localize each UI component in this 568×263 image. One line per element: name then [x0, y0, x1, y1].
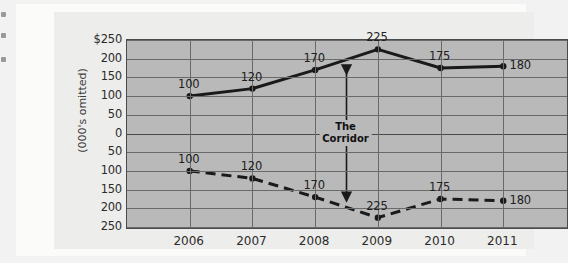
- gridline-vertical: [252, 40, 253, 228]
- gridline-horizontal: [127, 40, 567, 41]
- gridline-vertical: [315, 40, 316, 228]
- data-label: 120: [241, 159, 262, 173]
- data-label: 170: [303, 178, 324, 192]
- data-label: 225: [366, 30, 387, 44]
- gridline-horizontal: [127, 171, 567, 172]
- gridline-horizontal: [127, 208, 567, 209]
- y-tick-label: 50: [60, 146, 122, 157]
- y-tick-label: 0: [60, 128, 122, 139]
- x-tick-label: 2008: [284, 234, 344, 248]
- x-tick-label: 2006: [159, 234, 219, 248]
- page-sheet: (000's omitted) $25020015010050050100150…: [16, 4, 526, 256]
- data-label: 100: [178, 77, 199, 91]
- y-tick-label: 150: [60, 184, 122, 195]
- y-tick-label: 200: [60, 53, 122, 64]
- data-label: 175: [429, 49, 450, 63]
- gridline-vertical: [190, 40, 191, 228]
- y-tick-label: 100: [60, 90, 122, 101]
- x-tick-label: 2009: [347, 234, 407, 248]
- data-label: 100: [178, 152, 199, 166]
- y-axis-ticks: $25020015010050050100150200250: [58, 39, 122, 229]
- data-label: 170: [303, 51, 324, 65]
- scan-artifacts: [0, 0, 10, 263]
- data-label: 225: [366, 199, 387, 213]
- y-tick-label: $250: [60, 34, 122, 45]
- gridline-horizontal: [127, 190, 567, 191]
- gridline-horizontal: [127, 115, 567, 116]
- gridline-vertical: [441, 40, 442, 228]
- corridor-label-line1: The: [322, 121, 368, 133]
- y-tick-label: 100: [60, 165, 122, 176]
- data-label: 180: [510, 58, 531, 72]
- gridline-horizontal: [127, 227, 567, 228]
- y-tick-label: 250: [60, 221, 122, 232]
- y-tick-label: 50: [60, 109, 122, 120]
- y-tick-label: 150: [60, 71, 122, 82]
- y-tick-label: 200: [60, 202, 122, 213]
- corridor-annotation-label: TheCorridor: [319, 120, 371, 146]
- gridline-horizontal: [127, 59, 567, 60]
- corridor-label-line2: Corridor: [322, 133, 368, 145]
- x-tick-label: 2007: [221, 234, 281, 248]
- x-tick-label: 2010: [410, 234, 470, 248]
- data-label: 120: [241, 70, 262, 84]
- gridline-vertical: [503, 40, 504, 228]
- gridline-horizontal: [127, 96, 567, 97]
- data-label: 175: [429, 180, 450, 194]
- x-tick-label: 2011: [472, 234, 532, 248]
- data-label: 180: [510, 193, 531, 207]
- chart-card: (000's omitted) $25020015010050050100150…: [54, 12, 534, 249]
